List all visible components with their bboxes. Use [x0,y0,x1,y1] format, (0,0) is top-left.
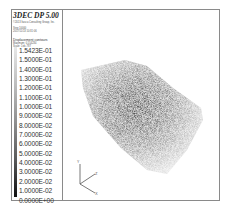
legend-value: 5.0000E-02 [19,149,54,158]
legend-value: 1.0000E-02 [19,186,54,195]
axis-x-label: X [95,191,98,196]
legend-value: 1.1000E-01 [19,93,54,102]
axis-y-label: Y [77,160,79,164]
model-viewport[interactable]: Y Z X [63,10,219,200]
legend-value: 2.0000E-02 [19,177,54,186]
legend-panel: 3DEC DP 5.00 ©2013 Itasca Consulting Gro… [11,9,63,201]
legend-value: 1.3000E-01 [19,74,54,83]
legend-value: 6.0000E-02 [19,139,54,148]
legend-value: 1.0000E-01 [19,102,54,111]
legend-values: 1.5423E-01 1.5000E-01 1.4000E-01 1.3000E… [19,46,54,205]
legend-value: 1.2000E-01 [19,83,54,92]
company-text: ©2013 Itasca Consulting Group, Inc. [13,21,55,24]
datetime-text: 2017/11/13 10:31:06 [13,30,37,33]
legend-value: 9.0000E-02 [19,111,54,120]
legend-value: 3.0000E-02 [19,167,54,176]
axis-z-label: Z [95,171,97,176]
legend-value: 7.0000E-02 [19,130,54,139]
legend-value: 0.0000E+00 [19,196,54,205]
legend-value: 1.5423E-01 [19,46,54,55]
legend-value: 1.5000E-01 [19,55,54,64]
legend-value: 8.0000E-02 [19,121,54,130]
legend-value: 1.4000E-01 [19,65,54,74]
legend-value: 4.0000E-02 [19,158,54,167]
colorbar [14,47,17,197]
displacement-contour-model [77,58,207,176]
axis-triad [73,160,103,194]
app-title: 3DEC DP 5.00 [13,11,59,20]
